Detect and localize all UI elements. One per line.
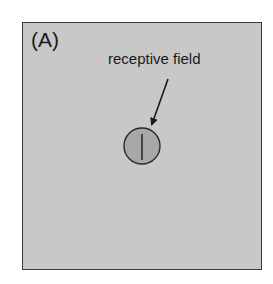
diagram-graphics: [0, 0, 273, 284]
pointer-arrow: [152, 79, 168, 124]
